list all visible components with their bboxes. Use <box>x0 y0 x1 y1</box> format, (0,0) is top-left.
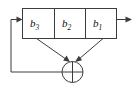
register-subscript-b3: 3 <box>35 23 40 32</box>
tap-arrow-head-b3 <box>63 56 70 62</box>
register-subscript-b2: 2 <box>68 23 72 32</box>
tap-line-b3 <box>37 39 67 60</box>
register-subscript-b1: 1 <box>99 23 103 32</box>
lfsr-diagram: b3 b2 b1 <box>0 0 139 91</box>
register-label-b1: b1 <box>93 17 102 32</box>
register-label-b3: b3 <box>30 17 40 32</box>
output-arrow-head <box>126 17 133 23</box>
lfsr-svg: b3 b2 b1 <box>0 0 139 91</box>
tap-line-b1 <box>79 39 104 60</box>
input-arrow-head <box>17 17 23 23</box>
register-label-b2: b2 <box>62 17 72 32</box>
